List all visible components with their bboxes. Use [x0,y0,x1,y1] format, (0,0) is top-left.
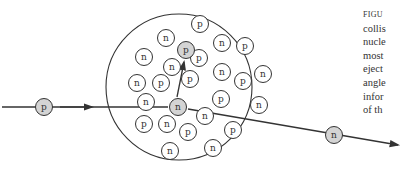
particle-label: n [169,62,175,72]
particle-label: p [185,127,191,137]
particle-label: p [240,76,246,86]
particle-label: p [218,94,224,104]
proton: p [235,73,252,90]
particle-label: n [219,67,225,77]
ejected-proton: p [178,42,195,59]
proton: p [153,75,170,92]
particle-label: n [163,33,169,43]
particle-label: n [164,119,170,129]
particle-label: p [158,78,164,88]
neutron: n [205,140,222,157]
struck-neutron: n [170,99,187,116]
neutron: n [214,35,231,52]
proton: p [237,38,254,55]
particle-label: n [256,100,262,110]
particle-label: p [187,74,193,84]
nucleon-group: pnnpnpnnnppnpnpnnpnppnn [129,16,272,160]
neutron: n [138,94,155,111]
particle-label: p [183,45,189,55]
caption-line: most [363,49,401,63]
caption-line: nucle [363,35,401,49]
particle-label: n [260,69,266,79]
particle-label: n [331,130,337,140]
neutron: n [129,75,146,92]
particle-label: p [41,102,47,112]
particle-label: n [202,111,208,121]
neutron: n [164,59,181,76]
proton: p [225,122,242,139]
particle-label: p [196,53,202,63]
particle-label: n [210,143,216,153]
caption-line: eject [363,62,401,76]
particle-label: p [141,119,147,129]
proton: p [180,124,197,141]
figure-caption: FIGUcollisnuclemostejectangleinforof th [363,8,401,117]
proton: p [136,116,153,133]
particle-label: p [197,19,203,29]
neutron: n [136,49,153,66]
proton: p [213,91,230,108]
neutron: n [162,143,179,160]
particle-label: n [175,102,181,112]
particle-label: p [242,41,248,51]
particle-label: n [134,78,140,88]
particle-label: n [141,52,147,62]
caption-line: of th [363,103,401,117]
particle-label: n [143,97,149,107]
proton: p [182,71,199,88]
outgoing-neutron: n [326,127,343,144]
particle-label: n [219,38,225,48]
caption-line: infor [363,90,401,104]
particle-label: p [230,125,236,135]
incoming-proton: p [36,99,53,116]
caption-line: angle [363,76,401,90]
neutron: n [214,64,231,81]
particle-label: n [167,146,173,156]
neutron: n [159,116,176,133]
proton-nucleus-collision-diagram: pnnpnpnnnppnpnpnnpnppnn pnpn [0,0,401,177]
caption-line: collis [363,22,401,36]
neutron: n [197,108,214,125]
proton: p [192,16,209,33]
neutron: n [251,97,268,114]
neutron: n [158,30,175,47]
caption-line: FIGU [363,8,401,22]
neutron: n [255,66,272,83]
